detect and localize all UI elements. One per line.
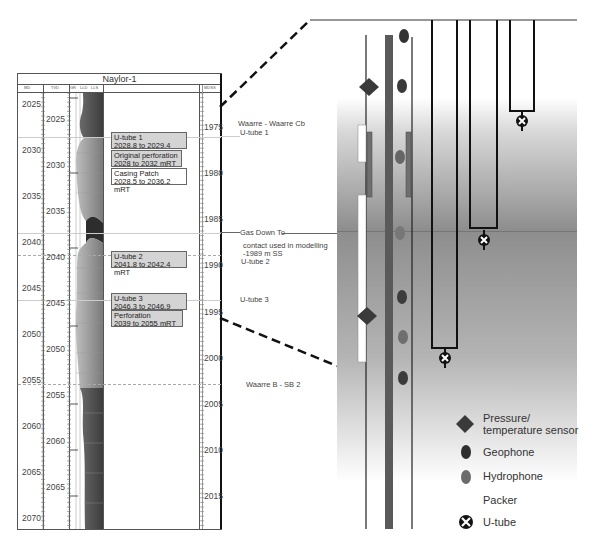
diamond-icon: [455, 414, 475, 434]
legend-label-hydrophone: Hydrophone: [483, 470, 543, 482]
hydrophone: [398, 330, 408, 344]
geophone: [398, 371, 408, 385]
pressure-sensor: [359, 78, 379, 96]
geophone: [397, 79, 407, 93]
hydrophone: [395, 150, 405, 164]
geophone: [399, 29, 409, 43]
legend-label-packer: Packer: [483, 494, 517, 506]
hydrophone: [395, 226, 405, 240]
legend-label-pressure: Pressure/: [483, 412, 530, 424]
legend: Pressure/ temperature sensor Geophone Hy…: [455, 410, 597, 540]
utube-icon: [458, 514, 474, 530]
packer: [358, 195, 366, 362]
legend-label-geophone: Geophone: [483, 446, 534, 458]
legend-label-temperature: temperature sensor: [483, 424, 578, 436]
legend-label-utube: U-tube: [483, 516, 516, 528]
packer: [358, 125, 366, 162]
geophone: [397, 290, 407, 304]
ellipse-icon: [460, 469, 472, 485]
ellipse-icon: [460, 444, 472, 460]
